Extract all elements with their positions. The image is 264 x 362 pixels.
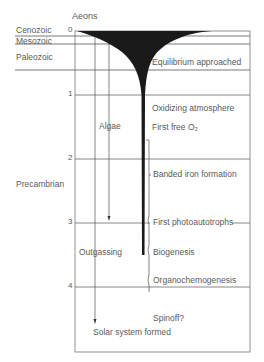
algae-arrowhead xyxy=(108,216,111,221)
event-organochemogenesis: Organochemogenesis xyxy=(153,275,236,285)
era-precambrian: Precambrian xyxy=(16,179,64,189)
event-first-free-o2: First free O₂ xyxy=(152,122,198,132)
tick-3: 3 xyxy=(68,217,72,226)
axis-title: Aeons xyxy=(72,11,98,21)
era-paleozoic: Paleozoic xyxy=(16,52,53,62)
event-biogenesis: Biogenesis xyxy=(153,247,195,257)
event-solar-system: Solar system formed xyxy=(93,327,171,337)
event-equilibrium: Equilibrium approached xyxy=(152,57,241,67)
event-first-photoautotrophs: First photoautotrophs xyxy=(153,217,233,227)
event-banded-iron: Banded iron formation xyxy=(153,169,237,179)
era-cenozoic: Cenozoic xyxy=(16,25,51,35)
outgassing-arrowhead xyxy=(94,319,97,324)
tick-4: 4 xyxy=(68,281,72,290)
tick-2: 2 xyxy=(68,153,72,162)
era-mesozoic: Mesozoic xyxy=(16,36,52,46)
event-spinoff: Spinoff? xyxy=(153,313,184,323)
process-algae: Algae xyxy=(99,121,121,131)
process-outgassing: Outgassing xyxy=(79,247,122,257)
bracket-line xyxy=(146,140,149,292)
frame xyxy=(75,31,250,352)
tick-1: 1 xyxy=(68,89,72,98)
event-oxidizing: Oxidizing atmosphere xyxy=(152,103,234,113)
tick-0: 0 xyxy=(68,25,72,34)
